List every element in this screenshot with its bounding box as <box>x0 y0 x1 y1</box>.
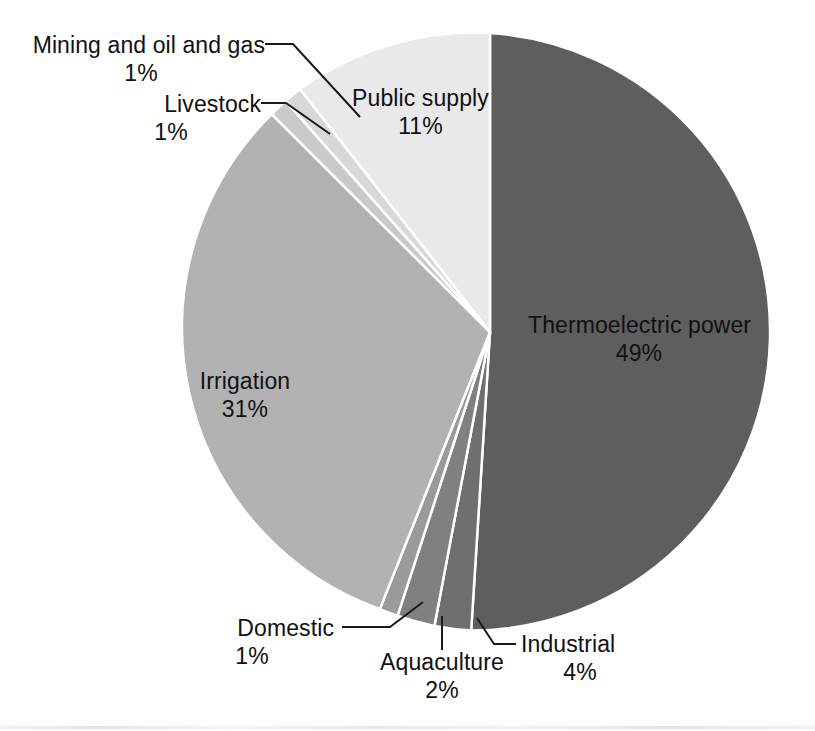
callout-label-domestic: Domestic 1% <box>182 614 334 670</box>
callout-label-domestic-name: Domestic <box>182 614 334 642</box>
callout-label-aquaculture-pct: 2% <box>352 676 532 704</box>
callout-label-domestic-pct: 1% <box>182 642 322 670</box>
slice-label-irrigation: Irrigation 31% <box>183 367 307 423</box>
slice-label-thermoelectric-power-name: Thermoelectric power <box>528 312 751 338</box>
slice-label-thermoelectric-power-pct: 49% <box>528 339 750 367</box>
callout-label-mining-and-oil-and-gas-pct: 1% <box>27 59 255 87</box>
slice-label-public-supply-pct: 11% <box>333 112 508 140</box>
scan-artifact-line <box>0 726 815 729</box>
slice-label-public-supply: Public supply 11% <box>333 84 508 140</box>
callout-label-mining-and-oil-and-gas: Mining and oil and gas 1% <box>27 31 265 87</box>
callout-label-mining-and-oil-and-gas-name: Mining and oil and gas <box>27 31 265 59</box>
callout-label-aquaculture: Aquaculture 2% <box>352 648 532 704</box>
callout-label-industrial: Industrial 4% <box>521 630 671 686</box>
slice-label-public-supply-name: Public supply <box>352 85 489 111</box>
slice-label-irrigation-pct: 31% <box>183 395 307 423</box>
slice-label-irrigation-name: Irrigation <box>200 368 290 394</box>
callout-label-livestock: Livestock 1% <box>95 90 261 146</box>
callout-label-industrial-name: Industrial <box>521 630 671 658</box>
callout-label-industrial-pct: 4% <box>521 658 639 686</box>
callout-label-livestock-name: Livestock <box>95 90 261 118</box>
callout-label-livestock-pct: 1% <box>95 118 247 146</box>
slice-label-thermoelectric-power: Thermoelectric power 49% <box>528 311 750 367</box>
callout-label-aquaculture-name: Aquaculture <box>352 648 532 676</box>
pie-chart-figure: Public supply 11% Thermoelectric power 4… <box>0 0 815 731</box>
